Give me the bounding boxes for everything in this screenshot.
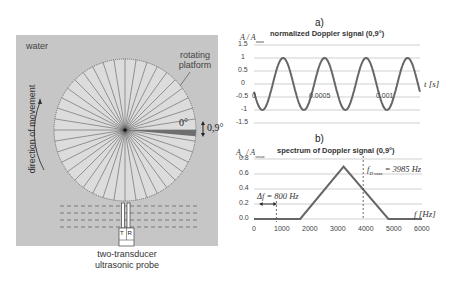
chart-a-title: normalized Doppler signal (0,9°) — [270, 29, 384, 38]
chart-a-panel-label: a) — [315, 17, 324, 28]
x-tick-label: 5000 — [386, 225, 402, 232]
rotating-platform-label: rotating platform — [173, 50, 217, 70]
probe-label-line1: two-transducer — [80, 249, 174, 260]
water-label: water — [26, 41, 48, 51]
y-tick-label: 0.8 — [239, 154, 249, 161]
y-tick-label: 0.0 — [239, 214, 249, 221]
y-tick-label: 0.6 — [239, 169, 249, 176]
chart-b-xlabel: f [Hz] — [414, 209, 436, 219]
fdmax-rest: = 3985 Hz — [383, 164, 422, 174]
receive-label: R — [128, 230, 132, 236]
x-tick-label: 4000 — [358, 225, 374, 232]
delta-f-annotation: Δf = 800 Hz — [257, 191, 299, 201]
x-tick-label: 1000 — [274, 225, 290, 232]
x-tick-label: 6000 — [414, 225, 430, 232]
x-tick-label: 2000 — [302, 225, 318, 232]
rotating-platform — [54, 59, 196, 201]
platform-label-line2: platform — [173, 60, 217, 70]
fdmax-annotation: fD max = 3985 Hz — [367, 164, 421, 176]
x-tick-label: 3000 — [330, 225, 346, 232]
probe-label: two-transducer ultrasonic probe — [80, 249, 174, 271]
y-tick-label: 0 — [241, 79, 245, 86]
transmit-label: T — [120, 230, 124, 236]
sector-start-angle-label: 0° — [179, 117, 188, 128]
chart-b-title: spectrum of Doppler signal (0,9°) — [277, 146, 395, 155]
y-tick-label: 0.4 — [239, 184, 249, 191]
direction-of-movement-label: direction of movement — [27, 79, 37, 179]
chart-a — [254, 45, 420, 123]
x-tick-label: 0.0005 — [309, 92, 330, 99]
figure-canvas — [0, 0, 460, 286]
ylabel-sub2: wmax — [255, 154, 264, 159]
platform-center — [123, 128, 126, 131]
y-tick-label: -1.5 — [236, 118, 248, 125]
ylabel-sub: max — [256, 39, 264, 44]
y-tick-label: -1 — [241, 105, 247, 112]
x-tick-label: 0 — [252, 225, 256, 232]
probe-label-line2: ultrasonic probe — [80, 260, 174, 271]
chart-b-panel-label: b) — [315, 133, 324, 144]
sector-width-label: 0,9° — [207, 122, 224, 133]
arrowhead-icon — [273, 202, 276, 206]
y-tick-label: 1.5 — [238, 40, 248, 47]
y-tick-label: 0.5 — [238, 66, 248, 73]
receive-transducer-bar — [127, 203, 130, 228]
x-tick-label: 0 — [252, 92, 256, 99]
y-tick-label: 0.2 — [239, 199, 249, 206]
x-tick-label: 0.001 — [376, 92, 394, 99]
y-tick-label: 1 — [241, 53, 245, 60]
arrowhead-icon — [260, 202, 263, 206]
transmit-transducer-bar — [122, 203, 125, 228]
y-tick-label: -0.5 — [236, 92, 248, 99]
chart-a-xlabel: t [s] — [424, 79, 439, 89]
fdmax-sub: D max — [369, 171, 382, 176]
platform-label-line1: rotating — [173, 50, 217, 60]
